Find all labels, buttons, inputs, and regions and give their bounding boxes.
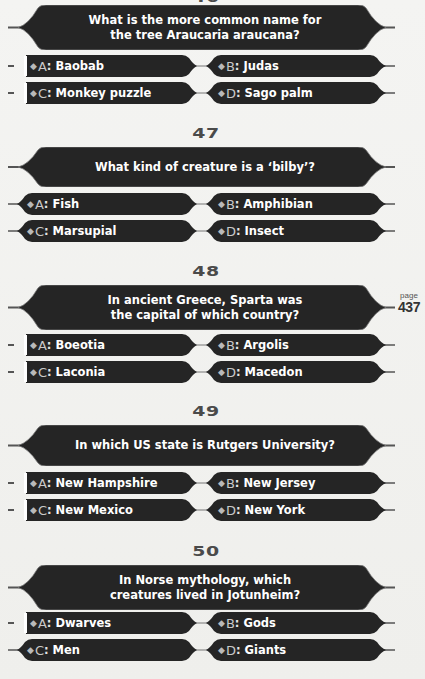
answer-row-ab: ◆ A: Baobab ◆ B: Judas — [0, 55, 425, 77]
page-number: 437 — [394, 300, 424, 315]
question-number: 50 — [0, 543, 425, 559]
answer-row-cd: ◆ C: Men ◆ D: Giants — [0, 639, 425, 661]
answer-b: ◆ B: Amphibian — [218, 193, 313, 215]
bullet-icon: ◆ — [218, 199, 225, 209]
answer-d: ◆ D: Giants — [218, 639, 286, 661]
bullet-icon: ◆ — [218, 88, 225, 98]
bullet-icon: ◆ — [218, 367, 225, 377]
question-box: What kind of creature is a ‘bilby’? — [0, 147, 425, 187]
answer-d: ◆ D: New York — [218, 499, 305, 521]
question-text: What kind of creature is a ‘bilby’? — [40, 147, 370, 187]
answer-row-ab: ◆ A: New Hampshire ◆ B: New Jersey — [0, 472, 425, 494]
answer-a: ◆ A: Dwarves — [30, 612, 111, 634]
answer-b: ◆ B: Argolis — [218, 334, 289, 356]
answer-c: ◆ C: Men — [27, 639, 80, 661]
answer-d: ◆ D: Sago palm — [218, 82, 313, 104]
bullet-icon: ◆ — [30, 61, 37, 71]
question-box: In ancient Greece, Sparta was the capita… — [0, 285, 425, 330]
question-text: In Norse mythology, which creatures live… — [40, 565, 370, 610]
bullet-icon: ◆ — [218, 61, 225, 71]
question-text: What is the more common name for the tre… — [40, 5, 370, 50]
answer-b: ◆ B: New Jersey — [218, 472, 315, 494]
answer-c: ◆ C: Monkey puzzle — [30, 82, 151, 104]
answer-d: ◆ D: Insect — [218, 220, 284, 242]
bullet-icon: ◆ — [218, 645, 225, 655]
bullet-icon: ◆ — [218, 478, 225, 488]
question-number: 48 — [0, 263, 425, 279]
page-number-label: page 437 — [394, 291, 424, 315]
answer-d: ◆ D: Macedon — [218, 361, 303, 383]
answer-a: ◆ A: Boeotia — [30, 334, 105, 356]
bullet-icon: ◆ — [30, 618, 37, 628]
bullet-icon: ◆ — [30, 340, 37, 350]
bullet-icon: ◆ — [30, 505, 37, 515]
bullet-icon: ◆ — [30, 88, 37, 98]
bullet-icon: ◆ — [27, 199, 34, 209]
quiz-book-page: 46 What is the more common name for the … — [0, 0, 425, 679]
bullet-icon: ◆ — [218, 618, 225, 628]
answer-row-ab: ◆ A: Boeotia ◆ B: Argolis — [0, 334, 425, 356]
bullet-icon: ◆ — [27, 226, 34, 236]
answer-row-cd: ◆ C: Marsupial ◆ D: Insect — [0, 220, 425, 242]
question-text: In which US state is Rutgers University? — [40, 425, 370, 466]
question-text: In ancient Greece, Sparta was the capita… — [40, 285, 370, 330]
answer-a: ◆ A: New Hampshire — [30, 472, 158, 494]
answer-row-ab: ◆ A: Fish ◆ B: Amphibian — [0, 193, 425, 215]
answer-b: ◆ B: Gods — [218, 612, 276, 634]
answer-b: ◆ B: Judas — [218, 55, 279, 77]
bullet-icon: ◆ — [218, 340, 225, 350]
question-box: In Norse mythology, which creatures live… — [0, 565, 425, 610]
answer-row-ab: ◆ A: Dwarves ◆ B: Gods — [0, 612, 425, 634]
bullet-icon: ◆ — [30, 367, 37, 377]
question-box: What is the more common name for the tre… — [0, 5, 425, 50]
answer-a: ◆ A: Fish — [27, 193, 79, 215]
answer-row-cd: ◆ C: Monkey puzzle ◆ D: Sago palm — [0, 82, 425, 104]
question-number: 49 — [0, 403, 425, 419]
bullet-icon: ◆ — [218, 505, 225, 515]
bullet-icon: ◆ — [218, 226, 225, 236]
bullet-icon: ◆ — [27, 645, 34, 655]
answer-a: ◆ A: Baobab — [30, 55, 104, 77]
answer-c: ◆ C: Laconia — [30, 361, 105, 383]
question-box: In which US state is Rutgers University? — [0, 425, 425, 466]
question-number: 47 — [0, 125, 425, 141]
bullet-icon: ◆ — [30, 478, 37, 488]
answer-c: ◆ C: Marsupial — [27, 220, 116, 242]
answer-row-cd: ◆ C: Laconia ◆ D: Macedon — [0, 361, 425, 383]
answer-c: ◆ C: New Mexico — [30, 499, 133, 521]
answer-row-cd: ◆ C: New Mexico ◆ D: New York — [0, 499, 425, 521]
